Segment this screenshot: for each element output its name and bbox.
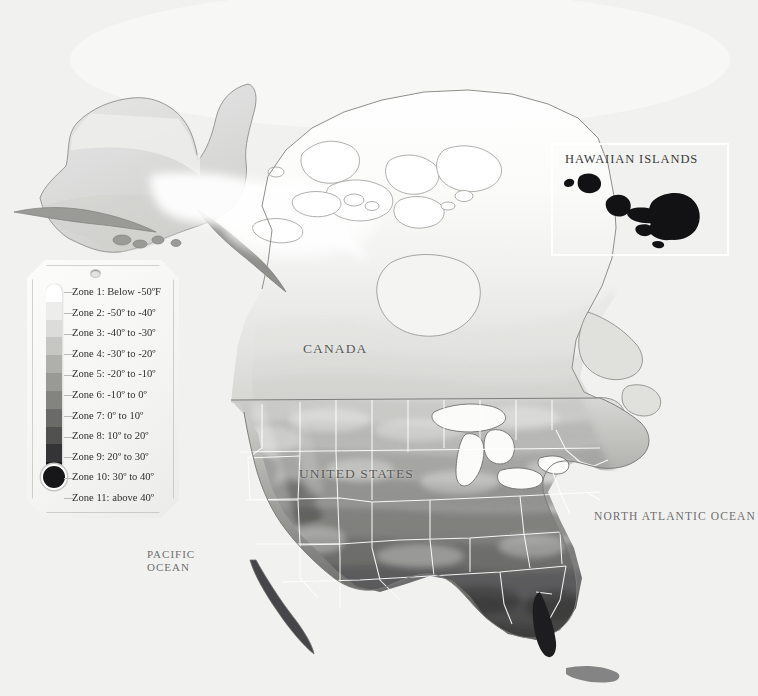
legend-zone-11: Zone 11: above 40º — [72, 488, 176, 509]
legend-zone-9: Zone 9: 20º to 30º — [72, 447, 176, 468]
legend-grommet-hole — [91, 270, 100, 277]
thermometer-segment-zone-6 — [46, 373, 62, 391]
label-pacific-line1: PACIFIC — [147, 548, 195, 560]
thermometer-segment-zone-4 — [46, 337, 62, 355]
hardiness-zone-legend-card: Zone 1: Below -50ºFZone 2: -50º to -40ºZ… — [27, 260, 179, 518]
thermometer-bulb — [43, 466, 65, 488]
legend-zone-4: Zone 4: -30º to -20º — [72, 344, 176, 365]
hawaii-inset-box: HAWAIIAN ISLANDS — [551, 143, 729, 256]
legend-zone-1: Zone 1: Below -50ºF — [72, 282, 176, 303]
thermometer-segment-zone-8 — [46, 409, 62, 427]
label-pacific-ocean: PACIFIC OCEAN — [147, 548, 195, 574]
label-united-states: UNITED STATES — [299, 466, 414, 482]
hawaii-inset-title: HAWAIIAN ISLANDS — [565, 152, 698, 167]
thermometer-tube — [46, 284, 62, 480]
island-kahoolawe — [652, 241, 664, 248]
thermometer-segment-zone-9 — [46, 427, 62, 445]
thermometer-segment-zone-1 — [46, 284, 62, 302]
island-oahu — [606, 195, 631, 217]
island-niihau — [564, 179, 574, 187]
island-kauai — [578, 174, 601, 194]
label-canada: CANADA — [303, 341, 367, 357]
thermometer-segment-zone-5 — [46, 355, 62, 373]
lake-superior — [432, 404, 506, 432]
thermometer-segment-zone-2 — [46, 302, 62, 320]
map-canvas: CANADA UNITED STATES NORTH ATLANTIC OCEA… — [0, 0, 758, 696]
legend-zone-2: Zone 2: -50º to -40º — [72, 303, 176, 324]
label-north-atlantic-ocean: NORTH ATLANTIC OCEAN — [594, 510, 756, 522]
legend-zone-list: Zone 1: Below -50ºFZone 2: -50º to -40ºZ… — [72, 282, 176, 509]
legend-zone-10: Zone 10: 30º to 40º — [72, 467, 176, 488]
thermometer-segment-zone-3 — [46, 320, 62, 338]
thermometer-segment-zone-7 — [46, 391, 62, 409]
legend-zone-6: Zone 6: -10º to 0º — [72, 385, 176, 406]
thermometer-segment-zone-10 — [46, 444, 62, 462]
thermometer-graphic — [43, 284, 65, 506]
hudson-bay — [377, 255, 481, 337]
legend-zone-7: Zone 7: 0º to 10º — [72, 406, 176, 427]
legend-zone-8: Zone 8: 10º to 20º — [72, 426, 176, 447]
legend-zone-5: Zone 5: -20º to -10º — [72, 364, 176, 385]
legend-zone-3: Zone 3: -40º to -30º — [72, 323, 176, 344]
label-pacific-line2: OCEAN — [147, 561, 190, 573]
